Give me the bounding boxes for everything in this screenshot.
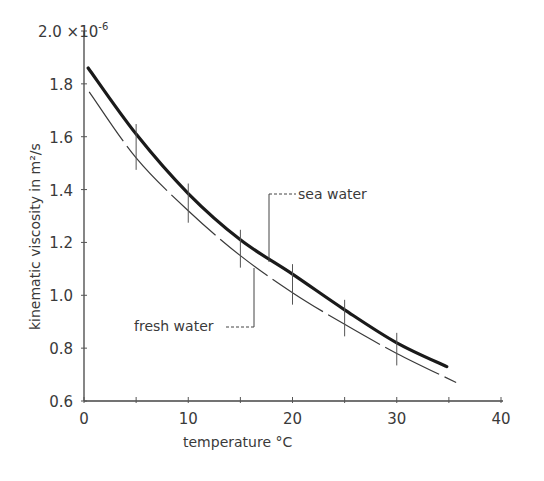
y-tick-label: 0.6: [49, 393, 73, 411]
x-tick-label: 10: [179, 410, 198, 428]
fresh-water-label: fresh water: [134, 318, 214, 334]
x-tick-label: 0: [79, 410, 89, 428]
tick-labels: 0102030400.60.81.01.21.41.61.8: [49, 76, 510, 428]
y-tick-label: 1.6: [49, 129, 73, 147]
x-tick-label: 40: [491, 410, 510, 428]
x-axis-label: temperature °C: [183, 434, 292, 450]
x-tick-label: 30: [387, 410, 406, 428]
sea-water-annotation: sea water: [269, 186, 367, 262]
viscosity-chart: 0102030400.60.81.01.21.41.61.8 2.0 ×10-6…: [0, 0, 544, 481]
sea-water-label: sea water: [298, 186, 367, 202]
y-axis-label: kinematic viscosity in m²/s: [27, 143, 43, 330]
y-tick-label: 1.8: [49, 76, 73, 94]
fresh-water-annotation: fresh water: [134, 268, 254, 334]
x-tick-label: 20: [283, 410, 302, 428]
y-tick-label: 1.0: [49, 287, 73, 305]
y-tick-label: 1.2: [49, 234, 73, 252]
y-axis-top-label: 2.0 ×10-6: [38, 21, 108, 41]
axes: [84, 31, 503, 401]
y-tick-label: 1.4: [49, 182, 73, 200]
ticks: [81, 31, 501, 403]
fresh-water-curve: [89, 92, 456, 383]
y-tick-label: 0.8: [49, 340, 73, 358]
